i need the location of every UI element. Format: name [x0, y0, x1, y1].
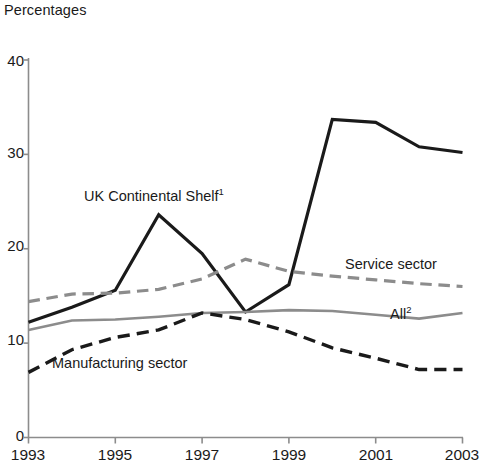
series-label-text: Manufacturing sector — [52, 355, 187, 371]
x-tick-label: 1993 — [11, 447, 45, 463]
x-tick-label: 2003 — [445, 447, 479, 463]
series-label-text: All — [390, 306, 406, 322]
footnote-marker: 2 — [406, 304, 411, 315]
series-line-uk-continental-shelf — [29, 119, 463, 322]
footnote-marker: 1 — [219, 186, 224, 197]
series-label-all: All2 — [390, 306, 411, 323]
chart-figure: Percentages 40 30 20 10 0 1993 1995 1997… — [0, 0, 492, 471]
series-label-service-sector: Service sector — [345, 256, 437, 273]
x-tick-label: 1999 — [272, 447, 306, 463]
plot-area — [0, 0, 492, 471]
series-label-uk-continental-shelf: UK Continental Shelf1 — [84, 188, 224, 205]
series-label-text: Service sector — [345, 256, 437, 272]
axis-lines — [24, 58, 464, 444]
series-label-manufacturing-sector: Manufacturing sector — [52, 355, 187, 372]
x-tick-label: 2001 — [359, 447, 393, 463]
series-label-text: UK Continental Shelf — [84, 188, 219, 204]
data-series-group — [29, 119, 463, 372]
x-tick-label: 1995 — [98, 447, 132, 463]
x-tick-label: 1997 — [185, 447, 219, 463]
x-tick-marks — [29, 438, 463, 444]
